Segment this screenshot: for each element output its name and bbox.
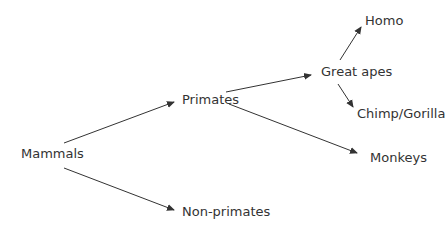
taxonomy-diagram: Mammals Primates Non-primates Great apes… [0, 0, 447, 235]
node-primates: Primates [182, 92, 239, 108]
node-homo: Homo [365, 13, 403, 29]
edge-great_apes-to-chimp_gorilla [338, 84, 353, 107]
node-non-primates: Non-primates [182, 204, 270, 220]
edge-mammals-to-primates [64, 102, 174, 143]
edge-primates-to-great_apes [226, 75, 311, 92]
edge-mammals-to-non_primates [64, 168, 174, 210]
node-chimp-gorilla: Chimp/Gorilla [357, 106, 445, 122]
edge-great_apes-to-homo [340, 27, 361, 60]
node-great-apes: Great apes [321, 64, 392, 80]
edge-primates-to-monkeys [229, 104, 357, 153]
node-mammals: Mammals [21, 146, 84, 162]
node-monkeys: Monkeys [370, 150, 427, 166]
